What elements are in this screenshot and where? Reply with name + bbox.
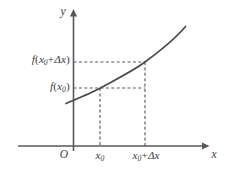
x-tick-label-x0: x0 xyxy=(84,150,116,163)
derivative-diagram-figure: f(x0+Δx) f(x0) x0 x0+Δx O y x xyxy=(0,0,229,171)
y-axis-arrowhead xyxy=(70,9,77,17)
function-curve xyxy=(66,27,186,104)
y-tick-label-f-x0: f(x0) xyxy=(0,81,70,94)
x-tick-label-x0-delta-x: x0+Δx xyxy=(118,150,174,163)
origin-label: O xyxy=(57,149,71,161)
y-tick-label-f-x0-delta-x: f(x0+Δx) xyxy=(0,54,70,67)
x-axis-label: x xyxy=(208,149,220,161)
y-axis-label: y xyxy=(57,6,69,18)
